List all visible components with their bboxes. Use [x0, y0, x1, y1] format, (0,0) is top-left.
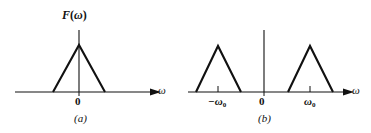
panel-b-tick-label-positive-main: ω [304, 95, 312, 107]
panel-b-tick-label-positive-subscript: 0 [312, 101, 316, 109]
panel-b-tick-label-negative-subscript: 0 [223, 101, 227, 109]
panel-b: F 2 (ω − ω0) + F 2 (ω + ω0) [185, 0, 371, 133]
figure-container: F(ω) ω 0 (a) F 2 (ω − ω0) [0, 0, 371, 133]
panel-b-axis-label: ω [352, 84, 360, 96]
panel-b-tick-label-negative: −ω0 [208, 95, 226, 109]
panel-b-origin-label: 0 [259, 95, 265, 107]
panel-a-caption: (a) [74, 112, 87, 124]
panel-a-title-F: F [62, 8, 70, 22]
panel-a-x-axis [15, 89, 161, 96]
panel-b-triangle-negative-omega0 [196, 46, 241, 92]
panel-a-title-close: ) [83, 8, 87, 22]
panel-b-caption: (b) [258, 112, 271, 124]
panel-b-plot [185, 0, 371, 133]
panel-b-tick-label-negative-main: −ω [208, 95, 223, 107]
panel-a-origin-label: 0 [75, 95, 81, 107]
panel-a-title: F(ω) [62, 9, 87, 21]
panel-a-title-omega: ω [74, 8, 83, 22]
panel-a-axis-label: ω [158, 84, 166, 96]
panel-a: F(ω) ω 0 (a) [0, 0, 185, 133]
panel-b-triangle-positive-omega0 [288, 46, 333, 92]
panel-a-plot [0, 0, 185, 133]
panel-b-tick-label-positive: ω0 [304, 95, 315, 109]
